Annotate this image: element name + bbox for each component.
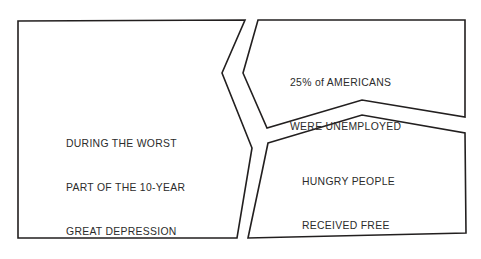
left-panel-line-1: DURING THE WORST bbox=[66, 137, 185, 152]
top-right-panel-line-2: WERE UNEMPLOYED bbox=[290, 120, 401, 135]
bottom-right-panel-text-block: HUNGRY PEOPLE RECEIVED FREE BREAD AND OT… bbox=[302, 145, 406, 259]
left-panel-text-block: DURING THE WORST PART OF THE 10-YEAR GRE… bbox=[66, 107, 185, 259]
left-panel-line-3: GREAT DEPRESSION bbox=[66, 225, 185, 240]
bottom-right-panel-line-2: RECEIVED FREE bbox=[302, 219, 406, 234]
bottom-right-panel-line-1: HUNGRY PEOPLE bbox=[302, 175, 406, 190]
top-right-panel-line-1: 25% of AMERICANS bbox=[290, 76, 401, 91]
torn-paper-diagram: DURING THE WORST PART OF THE 10-YEAR GRE… bbox=[0, 0, 481, 259]
left-panel-line-2: PART OF THE 10-YEAR bbox=[66, 181, 185, 196]
